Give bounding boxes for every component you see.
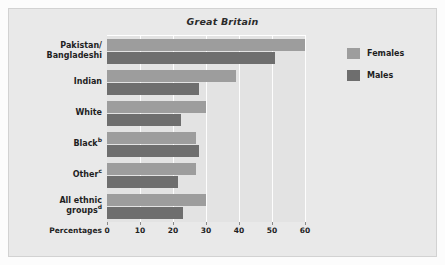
x-tick-label-50: 50 bbox=[262, 226, 282, 235]
bar-females-3 bbox=[107, 132, 196, 144]
bar-females-1 bbox=[107, 70, 236, 82]
plot-area bbox=[107, 36, 305, 222]
x-tick-mark-50 bbox=[272, 222, 273, 225]
x-tick-label-20: 20 bbox=[163, 226, 183, 235]
category-label-line: Bangladeshi bbox=[20, 51, 102, 61]
category-footnote-5: d bbox=[98, 203, 102, 210]
bar-males-3 bbox=[107, 145, 199, 157]
category-label-line: Pakistan/ bbox=[20, 41, 102, 51]
legend-label-males: Males bbox=[367, 71, 393, 80]
category-label-line: White bbox=[20, 108, 102, 118]
bar-males-5 bbox=[107, 207, 183, 219]
bar-females-5 bbox=[107, 194, 206, 206]
x-tick-label-60: 60 bbox=[295, 226, 315, 235]
page-margin-bottom bbox=[0, 257, 445, 265]
category-label-line: Otherc bbox=[20, 170, 102, 180]
gridline-30 bbox=[206, 36, 207, 222]
legend-item-males[interactable]: Males bbox=[347, 70, 404, 81]
bar-females-0 bbox=[107, 39, 305, 51]
x-tick-mark-60 bbox=[305, 222, 306, 225]
chart-figure: Great Britain Pakistan/BangladeshiIndian… bbox=[0, 0, 445, 265]
category-label-1: Indian bbox=[20, 77, 102, 87]
category-footnote-3: b bbox=[98, 136, 102, 143]
x-tick-label-0: 0 bbox=[97, 226, 117, 235]
category-footnote-4: c bbox=[98, 167, 102, 174]
legend-item-females[interactable]: Females bbox=[347, 48, 404, 59]
bar-males-4 bbox=[107, 176, 178, 188]
gridline-60 bbox=[305, 36, 306, 222]
bar-females-2 bbox=[107, 101, 206, 113]
category-label-2: White bbox=[20, 108, 102, 118]
x-tick-mark-40 bbox=[239, 222, 240, 225]
x-tick-label-40: 40 bbox=[229, 226, 249, 235]
x-axis-label: Percentages bbox=[18, 226, 102, 235]
bar-females-4 bbox=[107, 163, 196, 175]
category-label-line: Blackb bbox=[20, 139, 102, 149]
page-margin-right bbox=[437, 0, 445, 265]
x-tick-label-10: 10 bbox=[130, 226, 150, 235]
bar-males-1 bbox=[107, 83, 199, 95]
category-label-line: All ethnic bbox=[20, 196, 102, 206]
gridline-50 bbox=[272, 36, 273, 222]
category-label-5: All ethnicgroupsd bbox=[20, 196, 102, 215]
page-margin-left bbox=[0, 0, 8, 265]
category-label-4: Otherc bbox=[20, 170, 102, 180]
category-label-line: groupsd bbox=[20, 206, 102, 216]
chart-title: Great Britain bbox=[0, 16, 445, 27]
x-tick-mark-20 bbox=[173, 222, 174, 225]
legend-swatch-females bbox=[347, 48, 360, 59]
gridline-40 bbox=[239, 36, 240, 222]
category-label-line: Indian bbox=[20, 77, 102, 87]
x-tick-mark-10 bbox=[140, 222, 141, 225]
category-label-0: Pakistan/Bangladeshi bbox=[20, 41, 102, 60]
bar-males-2 bbox=[107, 114, 181, 126]
bar-males-0 bbox=[107, 52, 275, 64]
chart-legend: FemalesMales bbox=[347, 48, 404, 92]
legend-label-females: Females bbox=[367, 49, 404, 58]
page-margin-top bbox=[0, 0, 445, 8]
legend-swatch-males bbox=[347, 70, 360, 81]
category-label-3: Blackb bbox=[20, 139, 102, 149]
x-tick-mark-0 bbox=[107, 222, 108, 225]
x-tick-mark-30 bbox=[206, 222, 207, 225]
x-tick-label-30: 30 bbox=[196, 226, 216, 235]
